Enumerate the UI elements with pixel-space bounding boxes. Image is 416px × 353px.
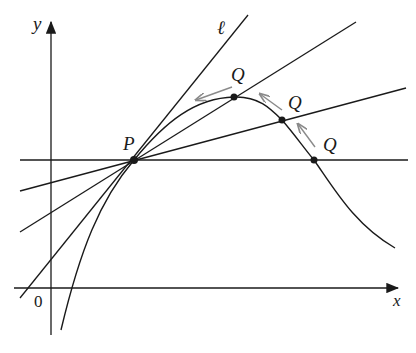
tangent-label: ℓ [217,18,225,37]
secant-pq2 [20,88,406,191]
point-q1 [231,94,238,101]
arrow-q2 [260,94,282,110]
label-q2: Q [288,93,302,112]
label-q1: Q [231,65,245,84]
label-q3: Q [323,135,337,154]
x-axis-label: x [393,292,401,309]
secant-pq1 [20,22,356,232]
label-p: P [123,134,135,153]
diagram-canvas [0,0,416,353]
curve [61,97,395,330]
point-q3 [311,157,318,164]
point-q2 [279,117,286,124]
point-p [130,156,138,164]
secant-tangent-diagram: y x 0 ℓ P Q Q Q [0,0,416,353]
origin-label: 0 [34,293,43,310]
y-axis-label: y [33,14,41,33]
